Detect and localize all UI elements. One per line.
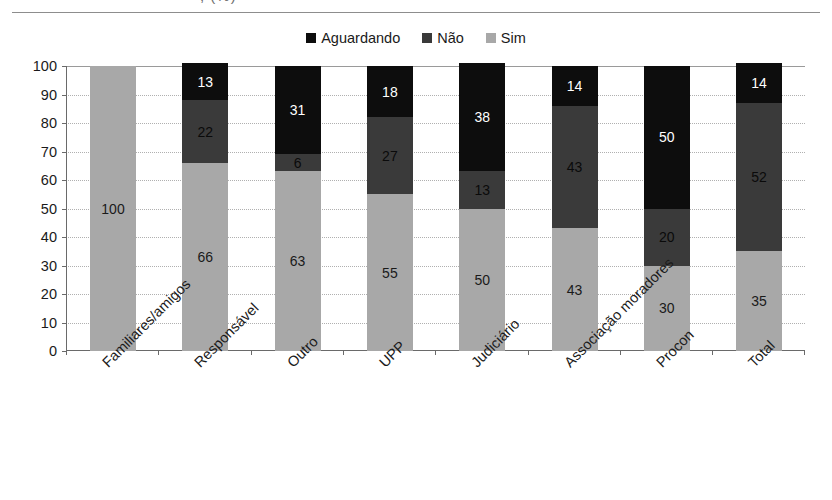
legend-item-label: Sim	[501, 30, 526, 46]
legend-item-label: Não	[437, 30, 464, 46]
legend-item-label: Aguardando	[321, 30, 400, 46]
bar-segment[interactable]: 63	[275, 171, 321, 351]
gridline	[66, 209, 805, 210]
y-axis-tick-label: 0	[49, 343, 57, 359]
bar-segment[interactable]: 66	[182, 163, 228, 351]
gridline	[66, 237, 805, 238]
y-axis-tick-label: 40	[41, 229, 57, 245]
legend-swatch-icon	[422, 33, 432, 43]
bar-segment[interactable]: 38	[459, 63, 505, 171]
bar-group[interactable]: 31663	[275, 66, 321, 351]
gridline	[66, 180, 805, 181]
header-divider	[12, 12, 820, 13]
bar-value-label: 43	[567, 160, 583, 174]
gridline	[66, 66, 805, 67]
gridline	[66, 152, 805, 153]
bar-segment[interactable]: 27	[367, 117, 413, 194]
y-axis-tick-mark	[62, 152, 66, 153]
y-axis-line	[66, 66, 67, 351]
bar-value-label: 13	[198, 75, 214, 89]
y-axis-tick-label: 90	[41, 87, 57, 103]
bar-segment[interactable]: 13	[459, 171, 505, 208]
chart-legend: AguardandoNãoSim	[0, 30, 832, 46]
bar-value-label: 30	[659, 301, 675, 315]
y-axis-tick-mark	[62, 209, 66, 210]
bar-segment[interactable]: 43	[552, 106, 598, 229]
bar-value-label: 22	[198, 125, 214, 139]
bar-segment[interactable]: 100	[90, 66, 136, 351]
bar-group[interactable]: 182755	[367, 66, 413, 351]
bar-value-label: 27	[382, 149, 398, 163]
y-axis-tick-mark	[62, 95, 66, 96]
bar-segment[interactable]: 55	[367, 194, 413, 351]
cropped-title-remnant: , (%)	[0, 0, 832, 10]
y-axis-tick-mark	[62, 237, 66, 238]
gridline	[66, 323, 805, 324]
bar-segment[interactable]: 31	[275, 66, 321, 154]
bar-segment[interactable]: 35	[736, 251, 782, 351]
y-axis-tick-label: 50	[41, 201, 57, 217]
bar-group[interactable]: 381350	[459, 63, 505, 351]
bar-value-label: 50	[474, 273, 490, 287]
bar-value-label: 43	[567, 283, 583, 297]
y-axis-tick-label: 100	[33, 58, 57, 74]
bar-value-label: 50	[659, 130, 675, 144]
y-axis-tick-label: 10	[41, 315, 57, 331]
bar-value-label: 20	[659, 230, 675, 244]
bar-segment[interactable]: 18	[367, 66, 413, 117]
legend-item[interactable]: Aguardando	[306, 30, 400, 46]
bar-segment[interactable]: 50	[644, 66, 690, 209]
y-axis-tick-label: 70	[41, 144, 57, 160]
bar-segment[interactable]: 22	[182, 100, 228, 163]
bar-segment[interactable]: 13	[182, 63, 228, 100]
y-axis-tick-mark	[62, 323, 66, 324]
legend-swatch-icon	[486, 33, 496, 43]
legend-swatch-icon	[306, 33, 316, 43]
y-axis-tick-mark	[62, 294, 66, 295]
legend-item[interactable]: Sim	[486, 30, 526, 46]
bar-group[interactable]: 100	[90, 66, 136, 351]
y-axis-tick-mark	[62, 123, 66, 124]
bar-segment[interactable]: 14	[552, 66, 598, 106]
bar-group[interactable]: 145235	[736, 63, 782, 351]
gridline	[66, 123, 805, 124]
bar-value-label: 31	[290, 103, 306, 117]
bar-value-label: 13	[474, 183, 490, 197]
bar-group[interactable]: 132266	[182, 63, 228, 351]
bar-value-label: 6	[294, 156, 302, 170]
bar-value-label: 14	[751, 76, 767, 90]
bar-value-label: 18	[382, 85, 398, 99]
bar-value-label: 100	[101, 202, 124, 216]
title-remnant-text: , (%)	[200, 0, 237, 4]
bar-value-label: 38	[474, 110, 490, 124]
y-axis-tick-mark	[62, 180, 66, 181]
legend-item[interactable]: Não	[422, 30, 464, 46]
y-axis-tick-label: 30	[41, 258, 57, 274]
gridline	[66, 266, 805, 267]
plot-area: 1009080706050403020100 10013226631663182…	[66, 66, 805, 351]
x-axis-category-labels: Familiares/amigosResponsávelOutroUPPJudi…	[66, 351, 805, 500]
y-axis-tick-label: 80	[41, 115, 57, 131]
bar-value-label: 14	[567, 79, 583, 93]
y-axis-tick-label: 60	[41, 172, 57, 188]
bar-value-label: 63	[290, 254, 306, 268]
bar-value-label: 52	[751, 170, 767, 184]
bar-group[interactable]: 144343	[552, 66, 598, 351]
bar-group[interactable]: 502030	[644, 66, 690, 351]
y-axis-tick-label: 20	[41, 286, 57, 302]
y-axis-tick-mark	[62, 66, 66, 67]
bar-segment[interactable]: 52	[736, 103, 782, 251]
gridline	[66, 95, 805, 96]
y-axis-tick-mark	[62, 266, 66, 267]
bar-value-label: 55	[382, 266, 398, 280]
bar-value-label: 66	[198, 250, 214, 264]
bar-segment[interactable]: 6	[275, 154, 321, 171]
bar-segment[interactable]: 14	[736, 63, 782, 103]
bar-value-label: 35	[751, 294, 767, 308]
